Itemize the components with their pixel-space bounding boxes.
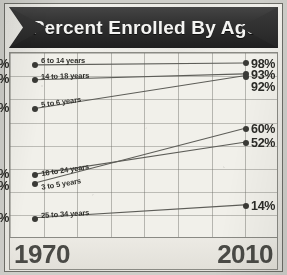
data-point-start-6-to-14	[32, 62, 38, 68]
value-end-18-to-24: 52%	[251, 136, 275, 150]
series-line-3-to-5	[35, 128, 244, 183]
data-point-end-6-to-14	[243, 60, 249, 66]
series-label-6-to-14: 6 to 14 years	[41, 56, 85, 65]
title-banner: Percent Enrolled By Age	[9, 7, 278, 48]
x-axis-footer: 1970 2010	[9, 238, 278, 270]
data-point-end-3-to-5	[243, 126, 249, 132]
value-end-3-to-5: 60%	[251, 122, 275, 136]
value-start-14-to-18: 89%	[0, 72, 9, 86]
series-label-14-to-18: 14 to 18 years	[41, 71, 89, 81]
chart-figure: Percent Enrolled By Age 6 to 14 years 14	[0, 0, 287, 275]
data-point-start-5-to-6	[32, 106, 38, 112]
banner-shape: Percent Enrolled By Age	[9, 7, 278, 48]
x-axis-tick-start: 1970	[14, 241, 70, 267]
value-end-5-to-6: 92%	[251, 80, 275, 94]
data-point-start-18-to-24	[32, 172, 38, 178]
value-start-3-to-5: 27%	[0, 179, 9, 193]
value-end-25-to-34: 14%	[251, 199, 275, 213]
value-start-25-to-34: 6%	[0, 211, 9, 225]
value-start-5-to-6: 73%	[0, 101, 9, 115]
data-point-end-18-to-24	[243, 140, 249, 146]
data-point-end-25-to-34	[243, 203, 249, 209]
data-point-start-14-to-18	[32, 77, 38, 83]
x-axis-tick-end: 2010	[217, 241, 273, 267]
data-point-start-3-to-5	[32, 181, 38, 187]
data-point-start-25-to-34	[32, 216, 38, 222]
data-point-end-5-to-6	[243, 74, 249, 80]
plot-area: 6 to 14 years 14 to 18 years 5 to 6 year…	[9, 52, 278, 238]
chart-title: Percent Enrolled By Age	[32, 18, 258, 37]
value-start-6-to-14: 97%	[0, 57, 9, 71]
